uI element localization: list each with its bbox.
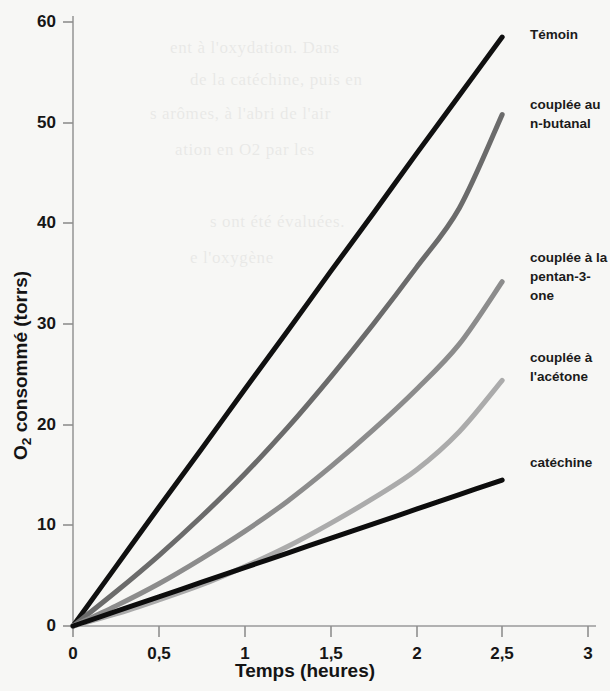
y-axis-title: O2 consommé (torrs) xyxy=(10,271,34,460)
series-label-acetone: couplée à l'acétone xyxy=(530,348,592,386)
series-label-catechine: catéchine xyxy=(530,453,592,472)
y-tick-marks xyxy=(63,22,73,626)
series-label-temoin: Témoin xyxy=(530,25,578,44)
series-label-n-butanal: couplée au n-butanal xyxy=(530,95,601,133)
data-series-group xyxy=(73,37,502,626)
y-tick-label-10: 10 xyxy=(20,515,56,535)
series-label-pentan-3-one: couplée à la pentan-3-one xyxy=(530,248,610,305)
y-tick-label-60: 60 xyxy=(20,12,56,32)
chart-container: ent à l'oxydation. Dans de la catéchine,… xyxy=(0,0,610,691)
y-tick-label-40: 40 xyxy=(20,213,56,233)
y-axis-title-rest: consommé (torrs) xyxy=(10,271,31,438)
y-axis-title-element: O xyxy=(10,445,31,460)
y-tick-label-0: 0 xyxy=(20,616,56,636)
x-tick-marks xyxy=(73,626,588,637)
plot-svg xyxy=(0,0,610,691)
series-line-0 xyxy=(73,37,502,626)
x-axis-title: Temps (heures) xyxy=(0,660,610,682)
y-axis-title-subscript: 2 xyxy=(19,438,34,446)
y-tick-label-50: 50 xyxy=(20,113,56,133)
